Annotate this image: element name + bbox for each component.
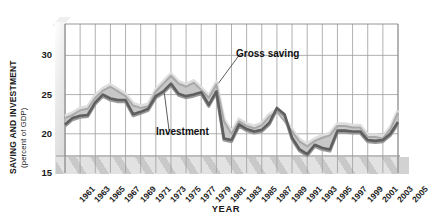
- y-tick-label: 30: [26, 49, 52, 60]
- y-tick-label: 15: [26, 167, 52, 178]
- annotation-gross-saving: Gross saving: [236, 48, 299, 59]
- y-axis-ticks: 15202530: [26, 0, 52, 223]
- annotation-investment: Investment: [156, 126, 209, 137]
- x-axis-title-text: YEAR: [212, 203, 240, 214]
- y-tick-label: 20: [26, 128, 52, 139]
- x-tick-label: 2005: [410, 184, 430, 204]
- plot-area: [65, 24, 398, 173]
- x-axis-title: YEAR: [0, 203, 424, 214]
- plot-base-right: [397, 157, 409, 174]
- chart-canvas: [65, 24, 398, 173]
- y-tick-label: 25: [26, 89, 52, 100]
- y-axis-label-group: SAVING AND INVESTMENT (percent of GDP): [6, 28, 26, 178]
- leader-line-investment: [164, 93, 169, 130]
- y-axis-title: SAVING AND INVESTMENT: [8, 60, 18, 174]
